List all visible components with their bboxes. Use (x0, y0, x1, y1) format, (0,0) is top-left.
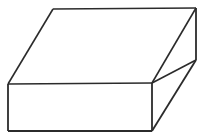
box-line-drawing (0, 0, 204, 140)
box-front-face (8, 83, 152, 131)
edge-top-back (53, 8, 196, 9)
edge-top-front (8, 83, 152, 84)
figure-canvas (0, 0, 204, 140)
